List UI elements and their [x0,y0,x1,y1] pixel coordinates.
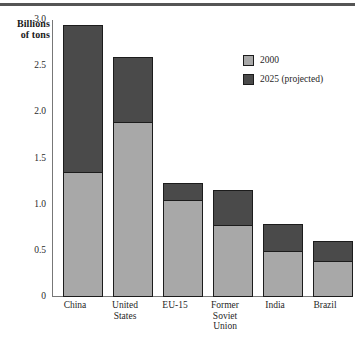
bar-segment-2025[interactable] [163,183,203,200]
legend-label: 2000 [260,55,279,65]
bar-segment-2025[interactable] [313,241,353,261]
x-category-label: FormerSovietUnion [197,300,253,332]
legend-label: 2025 (projected) [260,74,323,84]
y-tick-label: 3.0 [18,15,46,25]
y-tick-label: 0 [18,292,46,302]
bar-segment-2000[interactable] [63,172,103,297]
x-category-label-line: China [47,300,103,311]
x-category-label-line: Union [197,321,253,332]
bar-segment-2025[interactable] [263,224,303,251]
x-category-label: Brazil [297,300,353,311]
x-category-label-line: United [97,300,153,311]
x-category-label-line: States [97,311,153,322]
x-category-label-line: Soviet [197,311,253,322]
y-tick-label: 2.0 [18,107,46,117]
y-tick-label: 2.5 [18,61,46,71]
legend-swatch-icon [243,55,254,66]
stacked-bar-chart: Billions of tons 00.51.01.52.02.53.0 Chi… [0,0,355,348]
legend-swatch-icon [243,74,254,85]
x-category-label-line: EU-15 [147,300,203,311]
x-category-label-line: Brazil [297,300,353,311]
y-tick-label: 0.5 [18,246,46,256]
x-category-label: UnitedStates [97,300,153,321]
y-tick-label: 1.0 [18,200,46,210]
bar-segment-2000[interactable] [113,122,153,297]
bar-segment-2000[interactable] [163,200,203,297]
legend-item[interactable]: 2000 [243,54,355,66]
x-category-label-line: Former [197,300,253,311]
x-category-label: China [47,300,103,311]
y-axis-title-line-2: of tons [4,29,50,40]
y-tick-label: 1.5 [18,154,46,164]
bar-segment-2000[interactable] [213,225,253,297]
bar-segment-2025[interactable] [63,25,103,173]
chart-legend: 20002025 (projected) [243,54,355,92]
bar-segment-2025[interactable] [213,190,253,225]
x-axis-category-labels: ChinaUnitedStatesEU-15FormerSovietUnionI… [52,300,350,346]
legend-item[interactable]: 2025 (projected) [243,73,355,85]
x-category-label-line: India [247,300,303,311]
x-category-label: EU-15 [147,300,203,311]
bar-segment-2025[interactable] [113,57,153,122]
x-category-label: India [247,300,303,311]
bar-segment-2000[interactable] [313,261,353,297]
bar-segment-2000[interactable] [263,251,303,297]
